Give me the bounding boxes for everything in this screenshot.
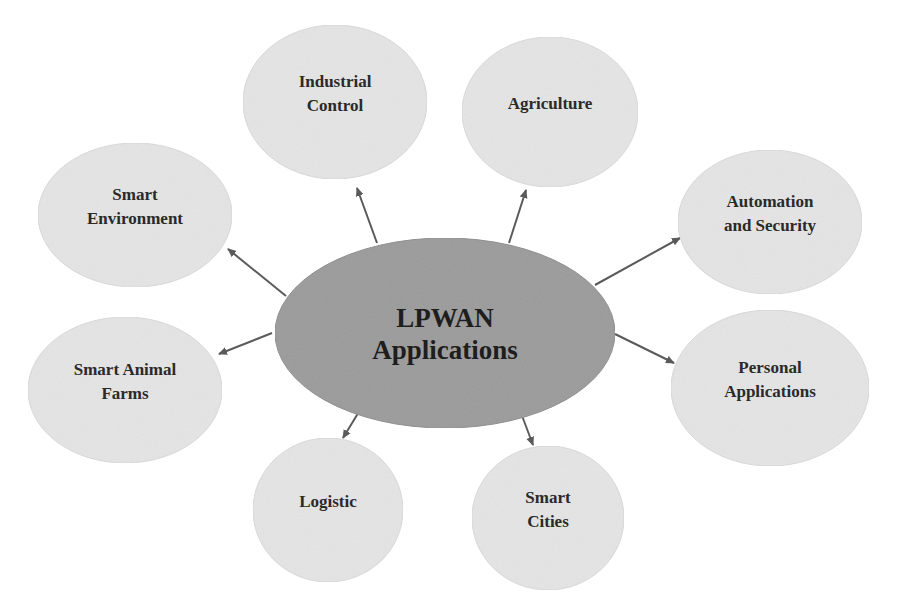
node-smart-cities: SmartCities — [472, 446, 624, 590]
node-label-line: Cities — [527, 512, 569, 531]
node-label-line: Logistic — [299, 492, 357, 511]
arrow-to-smart-environment — [228, 249, 286, 296]
node-label-line: Industrial — [299, 72, 372, 91]
node-agriculture: Agriculture — [462, 37, 638, 187]
node-label-line: and Security — [724, 216, 817, 235]
node-label-line: Control — [307, 96, 364, 115]
node-label-line: Smart — [112, 185, 158, 204]
node-industrial-control: IndustrialControl — [243, 25, 427, 179]
node-label-line: Smart Animal — [74, 360, 177, 379]
arrow-to-personal-applications — [615, 334, 674, 363]
node-label-line: Environment — [87, 209, 183, 228]
arrow-to-smart-animal-farms — [219, 333, 272, 354]
center-node: LPWAN Applications — [275, 238, 615, 428]
center-ellipse — [275, 238, 615, 428]
node-label-line: Personal — [738, 358, 802, 377]
lpwan-applications-diagram: IndustrialControlAgricultureSmartEnviron… — [0, 0, 906, 616]
arrow-to-automation-and-security — [595, 238, 680, 285]
node-personal-applications: PersonalApplications — [671, 310, 869, 466]
arrow-to-agriculture — [509, 190, 526, 243]
node-label-line: Smart — [525, 488, 571, 507]
node-smart-environment: SmartEnvironment — [38, 143, 232, 287]
node-label-line: Farms — [101, 384, 149, 403]
node-logistic: Logistic — [253, 438, 403, 582]
node-label-line: Agriculture — [508, 94, 593, 113]
node-smart-animal-farms: Smart AnimalFarms — [28, 317, 222, 463]
center-title-line1: LPWAN — [396, 303, 494, 333]
center-title-line2: Applications — [372, 335, 518, 365]
node-label-line: Automation — [727, 192, 814, 211]
arrow-to-industrial-control — [357, 188, 377, 243]
node-label-line: Applications — [724, 382, 816, 401]
node-automation-and-security: Automationand Security — [678, 150, 862, 294]
